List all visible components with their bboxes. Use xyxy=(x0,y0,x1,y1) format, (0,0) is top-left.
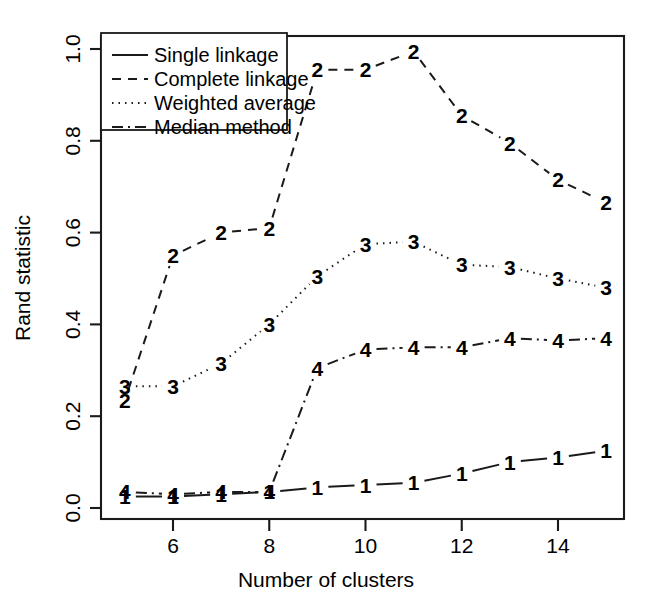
series-segment xyxy=(328,486,354,487)
data-point-marker: 2 xyxy=(167,244,179,267)
series-segment xyxy=(183,237,211,250)
series-segment xyxy=(473,340,500,345)
data-point-marker: 3 xyxy=(263,313,275,336)
series-segment xyxy=(521,459,547,462)
data-point-marker: 2 xyxy=(456,104,468,127)
data-point-marker: 2 xyxy=(552,168,564,191)
data-point-marker: 3 xyxy=(167,375,179,398)
data-point-marker: 4 xyxy=(552,329,564,352)
series-segment xyxy=(568,185,596,198)
series-segment xyxy=(328,354,356,365)
data-point-marker: 1 xyxy=(360,474,372,497)
series-segment xyxy=(184,495,210,496)
series-segment xyxy=(376,55,404,66)
data-point-marker: 1 xyxy=(312,476,324,499)
series-segment xyxy=(569,281,596,286)
data-point-marker: 2 xyxy=(312,58,324,81)
data-point-marker: 2 xyxy=(360,58,372,81)
data-point-marker: 4 xyxy=(600,327,612,350)
series-segment xyxy=(280,488,306,491)
series-segment xyxy=(273,378,313,481)
data-point-marker: 4 xyxy=(456,336,468,359)
data-point-marker: 3 xyxy=(504,256,516,279)
x-axis-title: Number of clusters xyxy=(238,568,414,591)
data-point-marker: 2 xyxy=(408,40,420,63)
data-point-marker: 1 xyxy=(600,439,612,462)
data-point-marker: 4 xyxy=(167,483,179,506)
data-point-marker: 1 xyxy=(456,462,468,485)
legend-label-complete-linkage: Complete linkage xyxy=(154,68,309,90)
series-segment xyxy=(230,331,261,356)
y-axis-title: Rand statistic xyxy=(11,215,34,341)
series-segment xyxy=(424,247,452,260)
data-point-marker: 3 xyxy=(552,267,564,290)
data-point-marker: 3 xyxy=(600,276,612,299)
data-point-marker: 4 xyxy=(119,480,131,503)
series-segment xyxy=(183,368,211,381)
x-tick-label-14: 14 xyxy=(546,534,570,557)
data-point-marker: 3 xyxy=(408,230,420,253)
series-segment xyxy=(420,60,455,107)
data-point-marker: 4 xyxy=(312,357,324,380)
y-axis-ticks: 0.00.20.40.60.81.0 xyxy=(61,34,101,522)
series-segment xyxy=(128,266,169,390)
chart-container: 0.00.20.40.60.81.0 68101214 Number of cl… xyxy=(0,0,653,614)
legend-label-weighted-average: Weighted average xyxy=(154,92,316,114)
series-segment xyxy=(376,483,402,484)
series-segment xyxy=(184,492,210,493)
data-point-marker: 1 xyxy=(504,451,516,474)
data-point-marker: 3 xyxy=(360,233,372,256)
series-segment xyxy=(327,250,357,270)
x-tick-label-10: 10 xyxy=(354,534,377,557)
data-point-marker: 2 xyxy=(600,191,612,214)
data-point-marker: 3 xyxy=(312,265,324,288)
y-tick-label-0.8: 0.8 xyxy=(61,126,84,155)
y-tick-label-1.0: 1.0 xyxy=(61,34,84,63)
data-point-marker: 2 xyxy=(215,221,227,244)
series-segment xyxy=(569,452,595,456)
data-point-marker: 2 xyxy=(504,132,516,155)
series-segment xyxy=(521,270,548,276)
data-point-marker: 3 xyxy=(456,253,468,276)
series-segment xyxy=(519,150,550,173)
series-segment xyxy=(472,465,499,471)
data-point-marker: 4 xyxy=(215,480,227,503)
series-segment xyxy=(471,121,500,138)
series-segment xyxy=(569,339,595,340)
y-tick-label-0.6: 0.6 xyxy=(61,218,84,247)
series-segment xyxy=(521,339,547,340)
legend-label-median-method: Median method xyxy=(154,116,292,138)
series-segment xyxy=(473,265,499,266)
rand-statistic-line-chart: 0.00.20.40.60.81.0 68101214 Number of cl… xyxy=(0,0,653,614)
data-point-marker: 2 xyxy=(263,217,275,240)
data-point-marker: 4 xyxy=(408,336,420,359)
x-tick-label-8: 8 xyxy=(263,534,275,557)
series-segment xyxy=(277,284,310,317)
x-axis-ticks: 68101214 xyxy=(167,519,570,557)
data-point-marker: 3 xyxy=(119,375,131,398)
y-tick-label-0.4: 0.4 xyxy=(61,309,84,339)
series-segment xyxy=(136,492,162,493)
x-tick-label-12: 12 xyxy=(450,534,473,557)
y-tick-label-0.0: 0.0 xyxy=(61,493,84,522)
y-tick-label-0.2: 0.2 xyxy=(61,402,84,431)
series-segment xyxy=(424,476,451,481)
series-segment xyxy=(232,229,258,232)
series-single-linkage: 11111111111 xyxy=(119,439,612,508)
legend-label-single-linkage: Single linkage xyxy=(154,44,279,66)
series-segment xyxy=(376,348,402,349)
series-segment xyxy=(376,242,402,243)
data-point-marker: 4 xyxy=(263,480,275,503)
data-point-marker: 1 xyxy=(408,471,420,494)
data-point-marker: 4 xyxy=(504,327,516,350)
series-weighted-average: 33333333333 xyxy=(119,230,612,398)
data-point-marker: 4 xyxy=(360,338,372,361)
data-point-marker: 1 xyxy=(552,446,564,469)
x-tick-label-6: 6 xyxy=(167,534,179,557)
data-point-marker: 3 xyxy=(215,352,227,375)
